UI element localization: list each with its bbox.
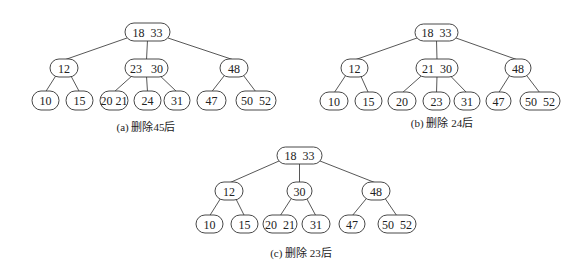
tree-node: 31 [164,91,190,110]
tree-node: 20 21 [100,91,128,110]
node-keys: 15 [74,94,86,108]
edge-n2330-l24 [147,76,148,92]
node-keys: 10 [328,95,340,109]
edge-n2130-l23 [437,76,438,93]
node-keys: 18 33 [285,149,315,163]
caption-a: (a) 删除45后 [117,120,176,134]
node-keys: 12 [58,62,70,76]
edge-root-n48 [320,161,376,183]
edge-n48-l5052 [527,76,540,93]
node-keys: 47 [346,218,358,232]
node-keys: 15 [363,95,375,109]
node-keys: 18 33 [422,26,452,40]
edge-n12-l15 [361,76,369,93]
tree-node: 23 [423,92,450,110]
node-keys: 50 52 [382,218,412,232]
node-keys: 20 21 [101,94,128,108]
node-keys: 48 [370,185,382,199]
tree-node: 10 [320,92,348,110]
tree-node: 48 [362,182,390,200]
node-keys: 12 [223,185,235,199]
tree-node: 20 21 [263,215,297,233]
edge-n12-l15 [236,199,245,216]
tree-node: 12 [341,59,368,77]
node-keys: 31 [310,218,322,232]
edge-n2330-l31 [160,76,177,92]
tree-node: 48 [505,59,531,77]
tree-node: 23 30 [125,59,168,77]
tree-node: 15 [66,91,93,110]
edge-root-n12 [64,38,127,60]
tree-b-after-delete-24: 18 331221 304810152023314750 52(b) 删除 24… [320,24,560,130]
node-keys: 48 [512,62,524,76]
edge-n12-l10 [46,76,56,92]
b-tree-deletion-diagram: 18 331223 3048101520 2124314750 52(a) 删除… [0,0,587,268]
caption-b: (b) 删除 24后 [411,116,473,130]
node-keys: 50 52 [241,94,271,108]
tree-node: 21 30 [416,59,458,77]
edge-n2130-l31 [451,76,468,93]
tree-node: 12 [215,182,243,200]
tree-node: 18 33 [277,147,322,164]
edge-root-n2130 [437,40,438,60]
edge-n48-l47 [212,76,225,92]
edge-n48-l5052 [385,199,397,216]
edge-n30-l2021 [280,199,291,216]
edge-root-n12 [355,38,418,60]
node-keys: 24 [142,94,154,108]
node-keys: 10 [40,94,52,108]
node-keys: 23 30 [130,62,163,76]
node-keys: 31 [171,94,183,108]
edge-n30-l31 [307,199,316,216]
tree-node: 31 [302,215,330,233]
tree-a-after-delete-45: 18 331223 3048101520 2124314750 52(a) 删除… [32,23,276,134]
edge-n48-l47 [499,76,510,93]
edge-root-n2330 [147,40,148,60]
node-keys: 12 [349,62,361,76]
node-keys: 23 [431,95,443,109]
node-keys: 10 [204,218,216,232]
tree-node: 24 [134,91,161,110]
tree-node: 18 33 [125,23,170,41]
tree-node: 10 [196,215,223,233]
edge-root-n12 [229,161,279,183]
node-keys: 31 [461,95,473,109]
node-keys: 20 [396,95,408,109]
tree-node: 50 52 [236,91,276,110]
edge-n48-l5052 [244,76,256,92]
node-keys: 21 30 [422,62,452,76]
node-keys: 47 [206,94,218,108]
edge-n12-l10 [210,199,221,216]
tree-node: 12 [50,59,78,77]
tree-node: 10 [32,91,59,110]
tree-node: 31 [454,92,480,110]
edge-n12-l15 [71,76,80,92]
edge-n2130-l20 [402,76,421,93]
node-keys: 50 52 [525,95,555,109]
tree-node: 50 52 [520,92,560,110]
node-keys: 48 [228,62,240,76]
node-keys: 47 [493,95,505,109]
tree-node: 50 52 [378,215,416,233]
node-keys: 18 33 [133,26,163,40]
tree-node: 47 [339,215,365,233]
edge-n2330-l2021 [114,76,132,92]
tree-node: 30 [287,182,312,200]
tree-node: 18 33 [415,24,458,41]
node-keys: 20 21 [265,218,295,232]
caption-c: (c) 删除 23后 [270,246,332,260]
tree-node: 47 [486,92,511,110]
tree-node: 47 [197,91,226,110]
edge-n12-l10 [334,76,345,93]
edge-root-n48 [456,38,518,60]
tree-node: 15 [231,215,258,233]
edge-n48-l47 [352,199,366,216]
tree-node: 48 [220,59,248,77]
edge-root-n48 [168,38,234,60]
tree-node: 15 [355,92,382,110]
tree-c-after-delete-23: 18 33123048101520 21314750 52(c) 删除 23后 [196,147,416,260]
tree-node: 20 [388,92,416,110]
node-keys: 15 [239,218,251,232]
node-keys: 30 [294,185,306,199]
